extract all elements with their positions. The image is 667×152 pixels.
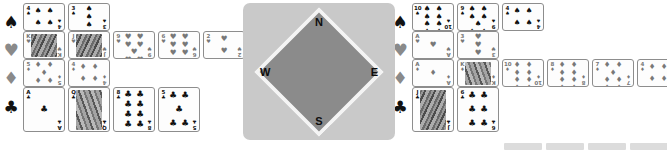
playing-card[interactable]: 9♠9♠♠♠♠♠♠♠♠♠♠ bbox=[457, 3, 499, 31]
club-icon: ♣ bbox=[2, 99, 20, 116]
card-index: 3♠ bbox=[70, 6, 77, 17]
playing-card[interactable]: 3♠3♠♠♠♠ bbox=[68, 3, 110, 31]
card-index: K♥ bbox=[56, 46, 63, 57]
playing-card[interactable]: A♦A♦♦ bbox=[412, 59, 454, 87]
playing-card[interactable]: 10♠10♠♠♠♠♠♠♠♠♠♠♠ bbox=[412, 3, 454, 31]
card-index: 3♥ bbox=[490, 46, 497, 57]
card-rank: 7 bbox=[625, 79, 632, 85]
playing-card[interactable]: Q♣Q♣ bbox=[68, 87, 110, 132]
playing-card[interactable]: 2♥2♥♥♥ bbox=[203, 31, 245, 59]
playing-card[interactable]: K♦K♦ bbox=[457, 59, 499, 87]
pip: ♥ bbox=[475, 49, 482, 57]
playing-card[interactable]: 5♣5♣♣♣♣♣♣ bbox=[158, 87, 200, 132]
card-pips: ♣♣♣♣♣ bbox=[167, 89, 191, 130]
playing-card[interactable]: 6♥6♥♥♥♥♥♥♥ bbox=[158, 31, 200, 59]
card-suit-icon: ♦ bbox=[101, 74, 108, 79]
card-index: 9♥ bbox=[115, 34, 122, 45]
pip: ♥ bbox=[182, 49, 189, 57]
card-pips: ♦ bbox=[421, 61, 445, 85]
playing-card[interactable]: 4♦4♦♦♦♦♦ bbox=[637, 59, 667, 87]
card-pips: ♦♦♦♦ bbox=[646, 61, 667, 85]
playing-card[interactable]: J♣J♣ bbox=[412, 87, 454, 132]
card-index: A♣ bbox=[56, 119, 63, 130]
card-index: 2♥ bbox=[205, 34, 212, 45]
card-index: 8♦ bbox=[580, 74, 587, 85]
card-suit-icon: ♦ bbox=[549, 67, 556, 72]
toolbar-button[interactable] bbox=[630, 143, 667, 150]
playing-card[interactable]: 9♥9♥♥♥♥♥♥♥♥♥♥ bbox=[113, 31, 155, 59]
card-rank: J bbox=[445, 124, 452, 130]
toolbar-button[interactable] bbox=[588, 143, 626, 150]
pip: ♦ bbox=[571, 84, 578, 88]
pip: ♦ bbox=[559, 84, 566, 88]
card-suit-icon: ♥ bbox=[236, 46, 243, 51]
card-suit-icon: ♥ bbox=[414, 39, 421, 44]
compass-east-label: E bbox=[371, 66, 378, 77]
playing-card[interactable]: 7♦7♦♦♦♦♦♦♦♦ bbox=[592, 59, 634, 87]
pip: ♠ bbox=[514, 19, 521, 27]
pip: ♦ bbox=[92, 75, 99, 83]
card-suit-icon: ♥ bbox=[459, 39, 466, 44]
pip: ♣ bbox=[175, 105, 183, 114]
card-suit-icon: ♦ bbox=[70, 67, 77, 72]
card-index: 8♦ bbox=[549, 62, 556, 73]
card-pips: ♣ bbox=[32, 89, 56, 130]
pip: ♠ bbox=[526, 19, 533, 27]
compass-west-label: W bbox=[260, 66, 270, 77]
card-rank: 4 bbox=[56, 23, 63, 29]
west-suit-legend: ♠ ♥ ♦ ♣ bbox=[0, 0, 22, 152]
pip: ♣ bbox=[136, 120, 144, 129]
playing-card[interactable]: 8♦8♦♦♦♦♦♦♦♦♦ bbox=[547, 59, 589, 87]
card-rank: 4 bbox=[101, 79, 108, 85]
toolbar-button[interactable] bbox=[546, 143, 584, 150]
card-suit-icon: ♣ bbox=[56, 119, 63, 124]
playing-card[interactable]: 4♠4♠♠♠♠♠ bbox=[23, 3, 65, 31]
playing-card[interactable]: 4♦4♦♦♦♦♦ bbox=[68, 59, 110, 87]
pip: ♣ bbox=[124, 110, 132, 119]
playing-card[interactable]: J♥J♥ bbox=[68, 31, 110, 59]
card-suit-icon: ♠ bbox=[70, 11, 77, 16]
card-rank: 9 bbox=[146, 51, 153, 57]
court-card-artwork bbox=[31, 34, 57, 57]
card-suit-icon: ♦ bbox=[594, 67, 601, 72]
toolbar-button[interactable] bbox=[504, 143, 542, 150]
playing-card[interactable]: 6♣6♣♣♣♣♣♣♣ bbox=[457, 87, 499, 132]
card-pips: ♦♦♦♦♦♦♦♦ bbox=[556, 61, 580, 85]
playing-card[interactable]: 5♦5♦♦♦♦♦♦ bbox=[23, 59, 65, 87]
card-pips: ♣♣♣♣♣♣♣♣ bbox=[122, 89, 146, 130]
pip: ♦ bbox=[35, 77, 42, 85]
playing-card[interactable]: A♥A♥♥ bbox=[412, 31, 454, 59]
playing-card[interactable]: K♥K♥ bbox=[23, 31, 65, 59]
playing-card[interactable]: 10♦10♦♦♦♦♦♦♦♦♦♦♦ bbox=[502, 59, 544, 87]
spade-icon: ♠ bbox=[2, 14, 20, 31]
pip: ♣ bbox=[124, 100, 132, 109]
playing-card[interactable]: 4♠4♠♠♠♠♠ bbox=[502, 3, 544, 31]
pip: ♥ bbox=[221, 47, 228, 55]
pip: ♠ bbox=[47, 7, 54, 15]
card-suit-icon: ♥ bbox=[445, 46, 452, 51]
playing-card[interactable]: 8♣8♣♣♣♣♣♣♣♣♣ bbox=[113, 87, 155, 132]
playing-card[interactable]: A♣A♣♣ bbox=[23, 87, 65, 132]
pip: ♥ bbox=[125, 56, 132, 60]
card-suit-icon: ♦ bbox=[414, 67, 421, 72]
pip: ♠ bbox=[526, 7, 533, 15]
pip: ♠ bbox=[35, 19, 42, 27]
playing-card[interactable]: 3♥3♥♥♥♥ bbox=[457, 31, 499, 59]
card-index: 4♦ bbox=[70, 62, 77, 73]
card-pips: ♠♠♠ bbox=[77, 5, 101, 29]
pip: ♣ bbox=[124, 120, 132, 129]
card-rank: 8 bbox=[146, 124, 153, 130]
card-suit-icon: ♣ bbox=[146, 119, 153, 124]
card-suit-icon: ♠ bbox=[414, 11, 421, 16]
card-rank: 6 bbox=[191, 51, 198, 57]
pip: ♠ bbox=[514, 7, 521, 15]
card-suit-icon: ♠ bbox=[490, 18, 497, 23]
pip: ♦ bbox=[514, 84, 521, 88]
card-suit-icon: ♦ bbox=[490, 74, 497, 79]
pip: ♦ bbox=[92, 63, 99, 71]
card-rank: 5 bbox=[56, 79, 63, 85]
pip: ♦ bbox=[47, 77, 54, 85]
card-suit-icon: ♥ bbox=[146, 46, 153, 51]
card-index: 7♦ bbox=[625, 74, 632, 85]
card-suit-icon: ♠ bbox=[459, 11, 466, 16]
